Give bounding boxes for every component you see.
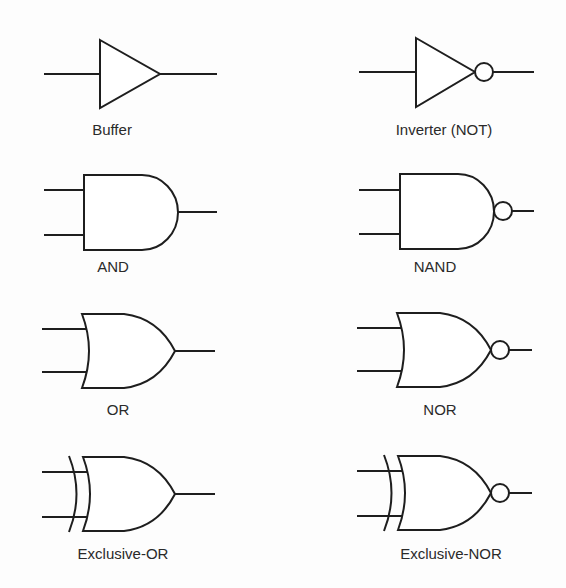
- xor-label: Exclusive-OR: [78, 545, 169, 562]
- xnor-label: Exclusive-NOR: [400, 545, 502, 562]
- xnor-gate-symbol: [357, 455, 532, 531]
- nor-label: NOR: [423, 401, 456, 418]
- nor-gate-symbol: [357, 313, 532, 387]
- gates-drawing: [0, 0, 566, 588]
- or-label: OR: [107, 401, 130, 418]
- inverter-label: Inverter (NOT): [396, 121, 493, 138]
- and-label: AND: [97, 258, 129, 275]
- inverter-gate-symbol: [359, 38, 534, 107]
- buffer-label: Buffer: [92, 121, 132, 138]
- or-gate-symbol: [42, 314, 215, 388]
- buffer-gate-symbol: [44, 40, 217, 108]
- logic-gates-diagram: Buffer Inverter (NOT) AND NAND OR NOR Ex…: [0, 0, 566, 588]
- nand-label: NAND: [414, 258, 457, 275]
- nand-gate-symbol: [359, 174, 534, 249]
- and-gate-symbol: [44, 175, 217, 250]
- xor-gate-symbol: [42, 456, 215, 532]
